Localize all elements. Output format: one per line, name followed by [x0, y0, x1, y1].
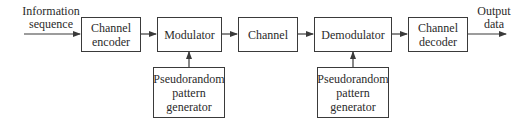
modulator-block: Modulator	[157, 17, 222, 52]
demodulator-block: Demodulator	[314, 17, 392, 52]
channel-decoder-line-2: decoder	[418, 35, 458, 49]
pn-generator-tx-line-1: Pseudorandom	[153, 72, 224, 86]
pn-generator-rx-line-1: Pseudorandom	[317, 72, 388, 86]
channel-label: Channel	[248, 28, 288, 42]
channel-encoder-block: Channel encoder	[81, 17, 141, 52]
channel-block: Channel	[238, 17, 298, 52]
demodulator-label: Demodulator	[321, 28, 384, 42]
pn-generator-rx-line-3: generator	[317, 100, 388, 114]
input-label: Information sequence	[22, 5, 80, 31]
pn-generator-rx-line-2: pattern	[317, 86, 388, 100]
modulator-label: Modulator	[164, 28, 215, 42]
output-label-line-2: data	[474, 18, 514, 31]
channel-encoder-line-2: encoder	[91, 35, 131, 49]
pn-generator-tx-block: Pseudorandom pattern generator	[153, 67, 225, 118]
channel-decoder-line-1: Channel	[418, 21, 458, 35]
pn-generator-tx-line-2: pattern	[153, 86, 224, 100]
channel-decoder-block: Channel decoder	[408, 17, 468, 52]
channel-encoder-line-1: Channel	[91, 21, 131, 35]
input-label-line-2: sequence	[22, 18, 80, 31]
pn-generator-tx-line-3: generator	[153, 100, 224, 114]
pn-generator-rx-block: Pseudorandom pattern generator	[317, 67, 389, 118]
output-label: Output data	[474, 5, 514, 31]
